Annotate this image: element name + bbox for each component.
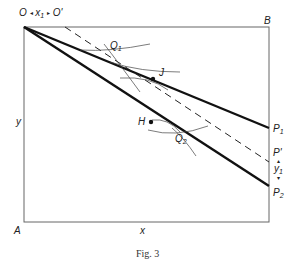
figure-caption: Fig. 3 — [136, 249, 159, 259]
label-q2: Q2 — [175, 134, 187, 145]
point-j — [151, 77, 155, 81]
label-q2-main: Q — [175, 133, 183, 144]
label-p1-sub: 1 — [280, 128, 284, 135]
label-o: O — [19, 7, 27, 18]
label-h: H — [138, 117, 145, 127]
point-h — [149, 120, 153, 124]
label-a: A — [14, 226, 21, 236]
label-p-prime: P' — [273, 148, 282, 158]
arrow-down-icon: ▾ — [274, 175, 283, 181]
label-x-axis: x — [140, 226, 145, 236]
arrow-right-icon: ▸ — [47, 10, 50, 16]
line-o-p2 — [24, 27, 269, 186]
label-j: J — [159, 68, 164, 78]
frame-rectangle — [24, 27, 269, 222]
dashed-line-oprime-pprime — [65, 27, 269, 162]
label-y1-sub: 1 — [279, 168, 283, 175]
label-b: B — [264, 16, 271, 26]
arrow-left-icon: ◂ — [30, 10, 33, 16]
label-x1-sub: 1 — [40, 12, 44, 19]
label-q2-sub: 2 — [183, 138, 187, 145]
label-q1: Q1 — [110, 41, 122, 52]
label-p1-main: P — [273, 123, 280, 134]
label-p2: P2 — [273, 188, 284, 199]
label-y-axis: y — [16, 117, 21, 127]
label-o-prime: O' — [53, 7, 63, 18]
line-o-p1 — [24, 27, 269, 128]
label-p1: P1 — [273, 124, 284, 135]
label-y1: ▴ y1 ▾ — [274, 158, 283, 181]
label-q1-main: Q — [110, 40, 118, 51]
label-p2-main: P — [273, 187, 280, 198]
label-top-x1: O ◂ x1 ▸ O' — [19, 8, 63, 19]
label-q1-sub: 1 — [118, 45, 122, 52]
label-p2-sub: 2 — [280, 192, 284, 199]
diagram-canvas — [0, 0, 299, 260]
